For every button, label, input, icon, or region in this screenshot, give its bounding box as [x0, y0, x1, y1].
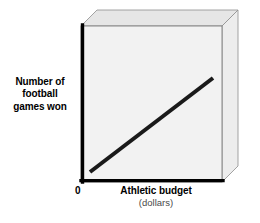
y-axis-label-line-1: Number of	[2, 76, 78, 88]
box-right-face	[222, 10, 238, 182]
x-axis-label-group: Athletic budget (dollars)	[96, 185, 216, 209]
plot-area	[81, 26, 222, 182]
y-axis-label-line-2: football	[2, 88, 78, 100]
y-axis-label-line-3: games won	[2, 101, 78, 113]
origin-label: 0	[75, 185, 81, 196]
box-top-face	[81, 10, 238, 26]
chart-figure: Number of football games won 0 Athletic …	[0, 0, 260, 223]
x-axis-label: Athletic budget	[96, 185, 216, 197]
x-axis-units-label: (dollars)	[96, 197, 216, 209]
y-axis-label: Number of football games won	[2, 76, 78, 113]
